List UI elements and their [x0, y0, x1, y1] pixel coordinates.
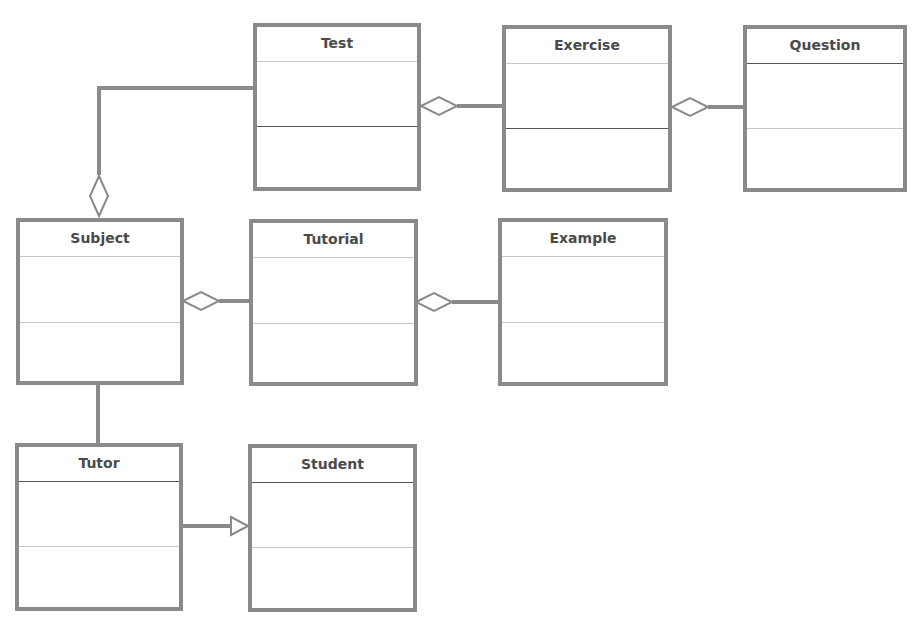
class-box-exercise[interactable]: Exercise	[502, 25, 672, 192]
operations-divider	[257, 126, 417, 127]
class-name: Student	[252, 448, 413, 472]
attributes-divider	[252, 482, 413, 483]
generalization-arrow-icon	[231, 517, 248, 535]
class-name: Tutorial	[253, 223, 414, 247]
class-box-subject[interactable]: Subject	[16, 218, 184, 385]
attributes-divider	[20, 256, 180, 257]
attributes-divider	[257, 61, 417, 62]
attributes-divider	[19, 481, 179, 482]
operations-divider	[502, 322, 664, 323]
class-name: Example	[502, 222, 664, 246]
relationship-exercise-question	[672, 98, 743, 116]
class-box-tutorial[interactable]: Tutorial	[249, 219, 418, 386]
class-box-tutor[interactable]: Tutor	[15, 443, 183, 611]
aggregation-diamond-icon	[421, 97, 457, 115]
class-name: Test	[257, 27, 417, 51]
relationship-test-exercise	[421, 97, 502, 115]
operations-divider	[253, 323, 414, 324]
uml-class-diagram: TestExerciseQuestionSubjectTutorialExamp…	[0, 0, 917, 622]
class-box-example[interactable]: Example	[498, 218, 668, 386]
operations-divider	[20, 322, 180, 323]
aggregation-diamond-icon	[672, 98, 708, 116]
attributes-divider	[747, 63, 903, 64]
operations-divider	[19, 546, 179, 547]
operations-divider	[506, 128, 668, 129]
connector-line	[99, 88, 253, 175]
aggregation-diamond-icon	[183, 292, 219, 310]
class-box-question[interactable]: Question	[743, 25, 907, 192]
aggregation-diamond-icon	[90, 176, 108, 216]
operations-divider	[252, 547, 413, 548]
class-box-student[interactable]: Student	[248, 444, 417, 612]
relationship-subject-tutorial	[183, 292, 249, 310]
attributes-divider	[502, 256, 664, 257]
attributes-divider	[253, 257, 414, 258]
attributes-divider	[506, 63, 668, 64]
operations-divider	[747, 128, 903, 129]
relationship-test-subject	[90, 88, 253, 216]
class-name: Tutor	[19, 447, 179, 471]
class-name: Subject	[20, 222, 180, 246]
class-name: Question	[747, 29, 903, 53]
relationship-tutorial-example	[416, 293, 498, 311]
class-name: Exercise	[506, 29, 668, 53]
aggregation-diamond-icon	[416, 293, 452, 311]
relationship-tutor-student	[183, 517, 248, 535]
class-box-test[interactable]: Test	[253, 23, 421, 191]
